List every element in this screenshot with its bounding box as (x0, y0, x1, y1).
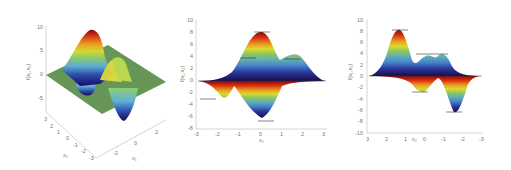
z-tick: 5 (40, 47, 43, 53)
svg-text:10: 10 (357, 17, 363, 23)
svg-text:3: 3 (322, 131, 325, 137)
svg-text:-6: -6 (358, 107, 363, 113)
svg-text:-1: -1 (441, 136, 446, 142)
projection-x2-plot: 10 8 6 4 2 0 -2 -4 -6 -8 -10 f(x₁,x₂) 3 … (340, 0, 511, 170)
svg-text:-8: -8 (358, 118, 363, 124)
svg-text:-3: -3 (479, 136, 484, 142)
x2-tick: 2 (50, 123, 53, 129)
svg-text:2: 2 (301, 131, 304, 137)
x2-tick: 1 (57, 129, 60, 135)
svg-text:0: 0 (360, 73, 363, 79)
svg-text:8: 8 (360, 28, 363, 34)
x1-tick: 0 (134, 140, 137, 146)
surface-mesh (369, 30, 482, 113)
svg-text:8: 8 (190, 29, 193, 35)
svg-text:3: 3 (366, 136, 369, 142)
projection-x1-svg: 10 8 6 4 2 0 -2 -4 -6 -8 f(x₁,x₂) -3 -2 … (170, 0, 340, 170)
svg-text:-1: -1 (236, 131, 241, 137)
surface-mesh (198, 32, 326, 118)
svg-text:4: 4 (360, 50, 363, 56)
svg-text:-4: -4 (358, 96, 363, 102)
x-axis-label: x₁ (259, 137, 264, 143)
svg-text:-3: -3 (194, 131, 199, 137)
svg-text:1: 1 (404, 136, 407, 142)
x1-axis-label: x₁ (132, 155, 137, 161)
svg-text:6: 6 (190, 41, 193, 47)
svg-text:-2: -2 (460, 136, 465, 142)
z-tick: -5 (38, 95, 43, 101)
svg-text:6: 6 (360, 39, 363, 45)
svg-text:-2: -2 (215, 131, 220, 137)
svg-text:0: 0 (190, 77, 193, 83)
x1-tick: 2 (155, 129, 158, 135)
y-ticks: 10 8 6 4 2 0 -2 -4 -6 -8 -10 (355, 17, 363, 136)
x2-axis-line (46, 112, 96, 158)
svg-text:2: 2 (360, 62, 363, 68)
svg-text:-4: -4 (188, 101, 193, 107)
svg-text:-2: -2 (188, 89, 193, 95)
surface-3d-svg: 10 5 0 -5 f(x₁,x₂) 3 2 1 0 -1 -2 -3 x₂ -… (0, 0, 170, 170)
svg-text:-10: -10 (355, 130, 363, 136)
x-ticks: 3 2 1 0 -1 -2 -3 (366, 136, 484, 142)
x2-tick: -3 (89, 155, 94, 161)
svg-text:0: 0 (423, 136, 426, 142)
z-tick: 10 (37, 24, 43, 30)
x2-tick: -2 (81, 148, 86, 154)
projection-x1-plot: 10 8 6 4 2 0 -2 -4 -6 -8 f(x₁,x₂) -3 -2 … (170, 0, 340, 170)
z-tick: 0 (40, 71, 43, 77)
x2-tick: -1 (73, 142, 78, 148)
x1-tick: -2 (113, 150, 118, 156)
svg-text:2: 2 (190, 65, 193, 71)
x-axis-label: x₂ (412, 136, 417, 142)
y-ticks: 10 8 6 4 2 0 -2 -4 -6 -8 (187, 17, 193, 131)
projection-x2-svg: 10 8 6 4 2 0 -2 -4 -6 -8 -10 f(x₁,x₂) 3 … (340, 0, 511, 170)
svg-text:4: 4 (190, 53, 193, 59)
svg-text:-6: -6 (188, 113, 193, 119)
surface-plot-3d: 10 5 0 -5 f(x₁,x₂) 3 2 1 0 -1 -2 -3 x₂ -… (0, 0, 170, 170)
x1-axis-line (96, 120, 166, 158)
svg-text:-2: -2 (358, 84, 363, 90)
y-axis-label: f(x₁,x₂) (179, 66, 185, 82)
x2-axis-label: x₂ (63, 152, 68, 158)
svg-text:1: 1 (280, 131, 283, 137)
svg-text:10: 10 (187, 17, 193, 23)
x2-tick: 3 (44, 116, 47, 122)
svg-text:-8: -8 (188, 125, 193, 131)
svg-text:2: 2 (385, 136, 388, 142)
y-axis-label: f(x₁,x₂) (347, 64, 353, 80)
z-axis-label: f(x₁,x₂) (25, 64, 31, 80)
x2-tick: 0 (66, 135, 69, 141)
